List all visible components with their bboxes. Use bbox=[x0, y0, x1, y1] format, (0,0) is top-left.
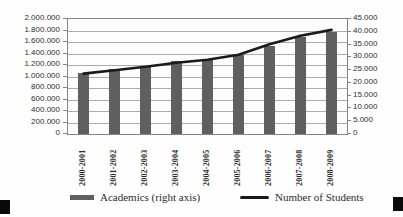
right-axis-tick bbox=[347, 31, 351, 32]
legend-label-students: Number of Students bbox=[275, 191, 364, 204]
right-axis-tick-label: 15.000 bbox=[353, 91, 377, 99]
right-axis-tick-label: 10.000 bbox=[353, 103, 377, 111]
left-axis-tick-label: 400.000 bbox=[8, 106, 60, 114]
left-axis-tick-label: 0 bbox=[8, 129, 60, 137]
left-axis-tick bbox=[63, 122, 67, 123]
right-axis-tick bbox=[347, 120, 351, 121]
right-axis-tick bbox=[347, 69, 351, 70]
right-axis-tick-label: 45.000 bbox=[353, 14, 377, 22]
bar-swatch-icon bbox=[70, 195, 94, 200]
left-axis-tick bbox=[63, 99, 67, 100]
left-axis-tick-label: 200.000 bbox=[8, 118, 60, 126]
line-swatch-icon bbox=[240, 196, 269, 199]
x-axis-label-2007-2008: 2007-2008 bbox=[295, 138, 304, 186]
left-axis-tick bbox=[63, 30, 67, 31]
legend-item-academics: Academics (right axis) bbox=[70, 191, 200, 204]
x-axis-label-2008-2009: 2008-2009 bbox=[326, 138, 335, 186]
left-axis-tick bbox=[63, 18, 67, 19]
left-axis-tick-label: 1.200.000 bbox=[8, 60, 60, 68]
right-axis-tick-label: 20.000 bbox=[353, 78, 377, 86]
scan-corner-mark-right bbox=[393, 197, 403, 211]
left-axis-tick-label: 800.000 bbox=[8, 83, 60, 91]
right-axis-tick bbox=[347, 95, 351, 96]
left-axis-tick bbox=[63, 76, 67, 77]
left-axis-tick bbox=[63, 64, 67, 65]
left-axis-tick-label: 1.000.000 bbox=[8, 72, 60, 80]
right-axis-tick-label: 40.000 bbox=[353, 27, 377, 35]
left-axis-tick bbox=[63, 41, 67, 42]
left-axis-tick bbox=[63, 133, 67, 134]
right-axis-tick bbox=[347, 44, 351, 45]
left-axis-tick-label: 600.000 bbox=[8, 95, 60, 103]
right-axis-tick bbox=[347, 82, 351, 83]
right-axis-tick-label: 35.000 bbox=[353, 40, 377, 48]
left-axis-tick bbox=[63, 110, 67, 111]
x-axis-label-2000-2001: 2000-2001 bbox=[78, 138, 87, 186]
scan-corner-mark-left bbox=[0, 200, 10, 214]
right-axis-tick-label: 25.000 bbox=[353, 65, 377, 73]
left-axis-tick bbox=[63, 87, 67, 88]
x-axis-label-2006-2007: 2006-2007 bbox=[264, 138, 273, 186]
x-axis-label-2005-2006: 2005-2006 bbox=[233, 138, 242, 186]
left-axis-tick-label: 1.400.000 bbox=[8, 49, 60, 57]
legend-label-academics: Academics (right axis) bbox=[100, 191, 200, 204]
x-axis-label-2004-2005: 2004-2005 bbox=[202, 138, 211, 186]
left-axis-tick-label: 2.000.000 bbox=[8, 14, 60, 22]
right-axis-tick-label: 30.000 bbox=[353, 52, 377, 60]
students-line bbox=[68, 19, 347, 134]
right-axis-tick bbox=[347, 107, 351, 108]
right-axis-tick bbox=[347, 18, 351, 19]
legend: Academics (right axis) Number of Student… bbox=[0, 191, 403, 207]
plot-area bbox=[67, 18, 348, 135]
left-axis-tick-label: 1.600.000 bbox=[8, 37, 60, 45]
students-line-path bbox=[84, 30, 332, 74]
right-axis-tick-label: 5.000 bbox=[353, 116, 373, 124]
legend-item-students: Number of Students bbox=[240, 191, 364, 204]
right-axis-tick bbox=[347, 56, 351, 57]
x-axis-label-2002-2003: 2002-2003 bbox=[140, 138, 149, 186]
left-axis-tick-label: 1.800.000 bbox=[8, 26, 60, 34]
right-axis-tick-label: 0 bbox=[353, 129, 357, 137]
right-axis-tick bbox=[347, 133, 351, 134]
x-axis-label-2003-2004: 2003-2004 bbox=[171, 138, 180, 186]
left-axis-tick bbox=[63, 53, 67, 54]
chart-figure: 2.000.0001.800.0001.600.0001.400.0001.20… bbox=[0, 0, 403, 217]
x-axis-label-2001-2002: 2001-2002 bbox=[109, 138, 118, 186]
